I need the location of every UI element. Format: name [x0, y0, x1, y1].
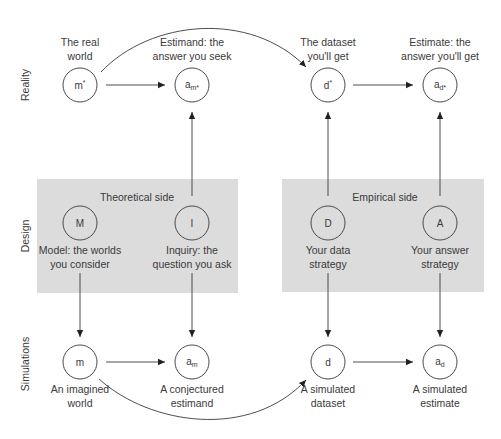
node-A-symbol: A — [437, 218, 444, 229]
node-M-caption-line2: you consider — [50, 258, 110, 270]
node-a-m-caption-line1: A conjectured — [160, 383, 224, 395]
node-d-caption-line1: A simulated — [301, 383, 355, 395]
node-M-symbol: M — [76, 218, 84, 229]
node-d-caption-line2: dataset — [311, 397, 346, 409]
node-D-caption-line2: strategy — [309, 258, 347, 270]
node-d-symbol: d — [325, 357, 331, 368]
theoretical-panel-title: Theoretical side — [100, 191, 174, 203]
node-d-star-symbol: d* — [324, 79, 333, 91]
node-a-d-star-caption-line1: Estimate: the — [409, 36, 470, 48]
node-a-d-star-symbol: ad* — [434, 79, 446, 91]
node-a-m-star-caption-line1: Estimand: the — [160, 36, 224, 48]
empirical-panel: Empirical side — [282, 179, 484, 292]
node-a-d-caption-line2: estimate — [420, 397, 460, 409]
row-label-design: Design — [19, 219, 31, 252]
node-D-caption-line1: Your data — [306, 244, 351, 256]
node-m-star-symbol: m* — [74, 79, 85, 91]
theoretical-panel: Theoretical side — [37, 179, 238, 293]
node-d-star-caption-line2: you'll get — [307, 50, 348, 62]
node-a-m-star: Estimand: the answer you seek am* — [153, 36, 233, 102]
node-a-d-star: Estimate: the answer you'll get ad* — [401, 36, 479, 102]
node-I-caption-line2: question you ask — [153, 258, 233, 270]
node-a-m-caption-line2: estimand — [171, 397, 214, 409]
node-d-star: The dataset you'll get d* — [300, 36, 356, 102]
node-I-caption-line1: Inquiry: the — [166, 244, 218, 256]
node-m-star: The real world m* — [61, 36, 100, 102]
node-a-d-star-caption-line2: answer you'll get — [401, 50, 479, 62]
node-d-star-caption-line1: The dataset — [300, 36, 356, 48]
row-label-simulations: Simulations — [19, 337, 31, 391]
node-m: m An imagined world — [51, 345, 110, 409]
node-a-m-symbol: am — [186, 356, 198, 368]
node-a-d: ad A simulated estimate — [413, 345, 467, 409]
node-a-m-star-caption-line2: answer you seek — [153, 50, 233, 62]
node-D-symbol: D — [324, 218, 331, 229]
node-m-caption-line1: An imagined — [51, 383, 110, 395]
node-d: d A simulated dataset — [301, 345, 355, 409]
node-a-d-caption-line1: A simulated — [413, 383, 467, 395]
node-I-symbol: I — [191, 218, 194, 229]
node-m-caption-line2: world — [66, 397, 92, 409]
node-a-d-symbol: ad — [435, 356, 445, 368]
node-A-caption-line1: Your answer — [411, 244, 469, 256]
empirical-panel-title: Empirical side — [352, 191, 418, 203]
node-A-caption-line2: strategy — [421, 258, 459, 270]
node-a-m-star-symbol: am* — [185, 79, 199, 91]
node-m-star-caption-line2: world — [66, 50, 92, 62]
node-m-symbol: m — [76, 357, 84, 368]
node-a-m: am A conjectured estimand — [160, 345, 224, 409]
row-label-reality: Reality — [19, 68, 31, 101]
node-M-caption-line1: Model: the worlds — [39, 244, 121, 256]
mida-diagram: Theoretical side Empirical side Reality … — [0, 0, 501, 439]
node-m-star-caption-line1: The real — [61, 36, 100, 48]
